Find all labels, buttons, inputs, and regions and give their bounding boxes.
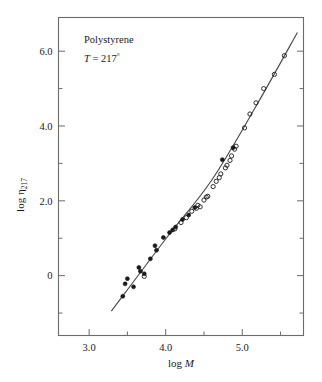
data-point-filled [181,218,185,222]
y-tick-label: 4.0 [39,121,52,132]
polystyrene-viscosity-chart: 3.04.05.0 02.04.06.0 Polystyrene T = 217… [0,0,322,382]
data-point-filled [142,272,146,276]
data-point-filled [153,244,157,248]
y-tick-label: 6.0 [39,46,52,57]
x-tick-label: 3.0 [83,342,96,353]
data-point-filled [148,257,152,261]
data-point-filled [187,213,191,217]
data-point-filled [137,265,141,269]
data-point-filled [123,282,127,286]
annotation-sample-name: Polystyrene [84,34,134,45]
data-point-filled [138,269,142,273]
data-point-filled [161,235,165,239]
y-tick-label: 0 [47,270,52,281]
data-point-filled [220,158,224,162]
data-point-filled [121,294,125,298]
y-tick-label: 2.0 [39,196,52,207]
data-point-filled [155,248,159,252]
x-tick-label: 5.0 [236,342,249,353]
annotation-temperature: T = 217° [84,52,120,64]
chart-page: 3.04.05.0 02.04.06.0 Polystyrene T = 217… [0,0,322,382]
chart-background [0,0,322,382]
data-point-filled [174,225,178,229]
data-point-filled [193,206,197,210]
data-point-filled [125,277,129,281]
data-point-filled [132,285,136,289]
x-tick-label: 4.0 [159,342,172,353]
data-point-filled [231,146,235,150]
x-axis-title: log M [168,357,195,369]
